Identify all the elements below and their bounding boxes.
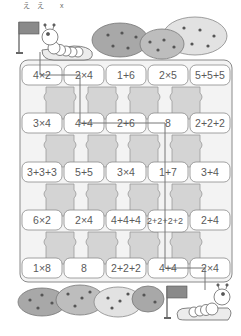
cell-r4-c3[interactable]: 4+4+4 <box>106 210 146 230</box>
start-flag <box>16 22 39 54</box>
cell-r5-c1[interactable]: 1×8 <box>22 258 62 278</box>
cell-r2-c3[interactable]: 2+6 <box>106 113 146 133</box>
cell-r4-c4[interactable]: 2+2+2+2 <box>150 211 180 231</box>
cell-r1-c5[interactable]: 5+5+5 <box>190 65 230 85</box>
cell-r2-c5[interactable]: 2+2+2 <box>190 113 230 133</box>
cell-r3-c5[interactable]: 3+4 <box>190 162 230 182</box>
cell-r5-c4[interactable]: 4+4 <box>148 258 188 278</box>
cell-r3-c4[interactable]: 1+7 <box>148 162 188 182</box>
cell-r2-c4[interactable]: 8 <box>148 113 188 133</box>
cell-r3-c1[interactable]: 3+3+3 <box>22 162 62 182</box>
cell-r2-c2[interactable]: 4+4 <box>64 113 104 133</box>
start-caterpillar <box>42 24 92 60</box>
bottom-bushes <box>18 285 164 317</box>
top-bushes <box>92 17 227 59</box>
cell-r5-c2[interactable]: 8 <box>64 258 104 278</box>
cell-r4-c1[interactable]: 6×2 <box>22 210 62 230</box>
cell-r3-c2[interactable]: 5+5 <box>64 162 104 182</box>
cell-r5-c3[interactable]: 2+2+2 <box>106 258 146 278</box>
cell-r4-c2[interactable]: 2×4 <box>64 210 104 230</box>
cell-r1-c1[interactable]: 4×2 <box>22 65 62 85</box>
cell-r2-c1[interactable]: 3×4 <box>22 113 62 133</box>
cell-r4-c5[interactable]: 2+4 <box>190 210 230 230</box>
cell-r3-c3[interactable]: 3×4 <box>106 162 146 182</box>
cell-r5-c5[interactable]: 2×4 <box>190 258 230 278</box>
cell-r1-c2[interactable]: 2×4 <box>64 65 104 85</box>
cell-r1-c3[interactable]: 1+6 <box>106 65 146 85</box>
cell-r1-c4[interactable]: 2×5 <box>148 65 188 85</box>
